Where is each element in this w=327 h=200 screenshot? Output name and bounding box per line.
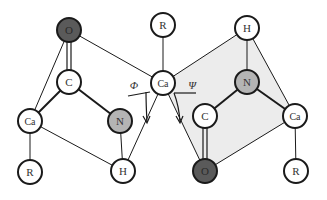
atom-label: R xyxy=(159,19,167,31)
atom-r0: R xyxy=(18,160,42,184)
atom-label: C xyxy=(65,76,72,88)
atom-label: Ca xyxy=(24,116,36,127)
atom-ca1: Ca xyxy=(18,109,42,133)
atom-o2: O xyxy=(193,159,217,183)
atom-label: Ca xyxy=(157,78,169,89)
atom-n1: N xyxy=(108,109,132,133)
peptide-torsion-diagram: Φ Ψ ORHCCaNCaNCCaRHOR xyxy=(0,0,327,200)
atom-label: O xyxy=(201,165,209,177)
psi-label: Ψ xyxy=(188,79,197,91)
phi-label: Φ xyxy=(130,79,139,91)
atom-label: R xyxy=(292,165,300,177)
atom-r1: R xyxy=(151,13,175,37)
atom-label: N xyxy=(116,115,124,127)
atom-c2: C xyxy=(193,104,217,128)
atom-label: H xyxy=(119,165,127,177)
atom-label: N xyxy=(243,76,251,88)
atom-c1: C xyxy=(57,70,81,94)
atom-h1: H xyxy=(235,16,259,40)
peptide-plane-right xyxy=(163,28,295,171)
atom-r3: R xyxy=(284,159,308,183)
atom-ca3: Ca xyxy=(283,104,307,128)
atom-label: R xyxy=(26,166,34,178)
atom-ca2: Ca xyxy=(151,71,175,95)
atom-h0: H xyxy=(111,159,135,183)
atom-label: Ca xyxy=(289,111,301,122)
atom-label: C xyxy=(201,110,208,122)
atom-o1: O xyxy=(57,18,81,42)
atom-n2: N xyxy=(235,70,259,94)
atom-label: O xyxy=(65,24,73,36)
atom-label: H xyxy=(243,22,251,34)
